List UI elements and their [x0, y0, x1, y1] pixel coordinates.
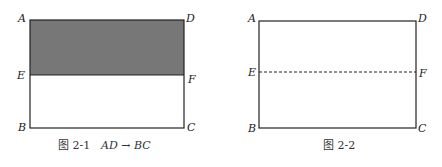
figure-2-2: A D E F B C 图 2-2 [247, 12, 427, 152]
caption-fig-2-2: 图 2-2 [323, 139, 355, 152]
rectangle-abcd [259, 21, 416, 128]
label-c: C [187, 121, 196, 134]
label-a: A [17, 12, 26, 25]
label-f: F [187, 73, 196, 86]
label-e: E [247, 66, 256, 79]
label-a: A [247, 12, 256, 25]
label-d: D [185, 12, 195, 25]
label-d: D [417, 12, 427, 25]
label-b: B [247, 122, 256, 135]
figure-2-1: A D E F B C 图 2-1 AD → BC [16, 12, 196, 152]
label-c: C [418, 122, 427, 135]
shaded-region-aefd [30, 20, 184, 75]
caption-fig-2-1-math: AD → BC [100, 139, 151, 152]
label-b: B [17, 121, 26, 134]
label-e: E [16, 69, 25, 82]
caption-fig-2-1-prefix: 图 2-1 [58, 139, 90, 152]
label-f: F [418, 67, 427, 80]
diagram-canvas: A D E F B C 图 2-1 AD → BC A D E F B C 图 … [0, 0, 442, 167]
